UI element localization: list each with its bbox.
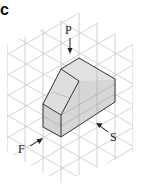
solid-shape: [43, 58, 115, 137]
view-arrow-side: S: [96, 123, 117, 144]
label-front: F: [18, 142, 25, 156]
label-side: S: [110, 130, 117, 144]
label-top: P: [65, 23, 72, 37]
isometric-figure: P F S: [0, 0, 145, 190]
view-arrow-front: F: [18, 138, 43, 156]
